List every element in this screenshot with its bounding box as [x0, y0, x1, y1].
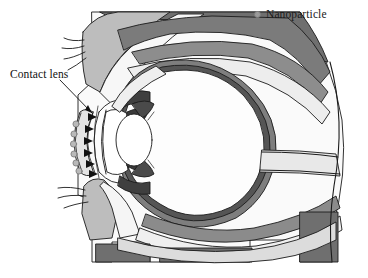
crystalline-lens: [116, 114, 152, 166]
optic-nerve: [260, 150, 340, 176]
nanoparticle-dot-icon: [73, 160, 79, 166]
eye-anatomy-figure: Nanoparticle Contact lens: [0, 0, 368, 278]
nanoparticle-dot-icon: [70, 141, 76, 147]
nanoparticle-dot-icon: [71, 131, 77, 137]
nanoparticle-dot-icon: [76, 168, 82, 174]
legend-label-nanoparticle: Nanoparticle: [266, 9, 327, 21]
legend: Nanoparticle: [254, 9, 327, 21]
nanoparticle-dot-icon: [254, 11, 261, 18]
nanoparticle-dot-icon: [71, 151, 77, 157]
eye-cross-section-diagram: [0, 0, 368, 278]
nanoparticle-dot-icon: [73, 121, 79, 127]
callout-label-contact-lens: Contact lens: [10, 68, 68, 80]
